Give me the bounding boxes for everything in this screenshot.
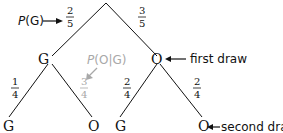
svg-text:P(O|G): P(O|G) [87,53,126,67]
svg-text:5: 5 [139,18,145,29]
svg-text:2: 2 [194,76,200,87]
prob-g-given-g-fraction: 1 4 [11,76,19,100]
pg-annotation: P(G) [18,14,63,28]
svg-text:P(G): P(G) [18,14,44,28]
second-draw-label: second draw [207,120,283,133]
first-draw-label: first draw [165,52,247,66]
prob-g-given-o-fraction: 2 4 [123,76,131,100]
probability-tree-diagram: G O G O G O 2 5 3 5 1 4 3 4 2 4 2 4 P(G) [0,0,283,133]
svg-text:2: 2 [67,5,73,16]
prob-o-fraction: 3 5 [138,5,146,29]
svg-text:4: 4 [12,89,18,100]
branch-root-to-o [106,3,157,56]
svg-text:1: 1 [12,76,18,87]
node-gg: G [3,118,14,133]
branch-root-to-g [52,3,106,56]
svg-text:4: 4 [81,89,87,100]
pog-annotation: P(O|G) [86,53,126,80]
node-oo: O [198,118,209,133]
svg-text:second draw: second draw [221,120,283,133]
node-og: G [115,118,126,133]
svg-text:5: 5 [67,18,73,29]
prob-g-fraction: 2 5 [66,5,74,29]
svg-text:first draw: first draw [190,52,247,66]
svg-text:4: 4 [194,89,200,100]
svg-text:2: 2 [124,76,130,87]
arrow-down-left-icon [89,68,97,76]
node-go: O [88,118,99,133]
prob-o-given-o-fraction: 2 4 [193,76,201,100]
node-g-first: G [38,51,49,67]
node-o-first: O [151,51,162,67]
svg-text:4: 4 [124,89,130,100]
svg-text:3: 3 [139,5,145,16]
